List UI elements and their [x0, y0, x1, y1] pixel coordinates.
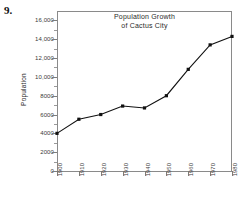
data-point	[230, 35, 233, 38]
data-point	[99, 113, 102, 116]
data-point	[77, 118, 80, 121]
data-point	[143, 106, 146, 109]
population-markers	[55, 35, 233, 135]
data-series-layer	[0, 0, 247, 208]
figure-root: 9. Population Growth of Cactus City Popu…	[0, 0, 247, 208]
population-line	[57, 36, 232, 133]
data-point	[121, 104, 124, 107]
data-point	[165, 94, 168, 97]
data-point	[55, 132, 58, 135]
data-point	[187, 68, 190, 71]
data-point	[209, 43, 212, 46]
